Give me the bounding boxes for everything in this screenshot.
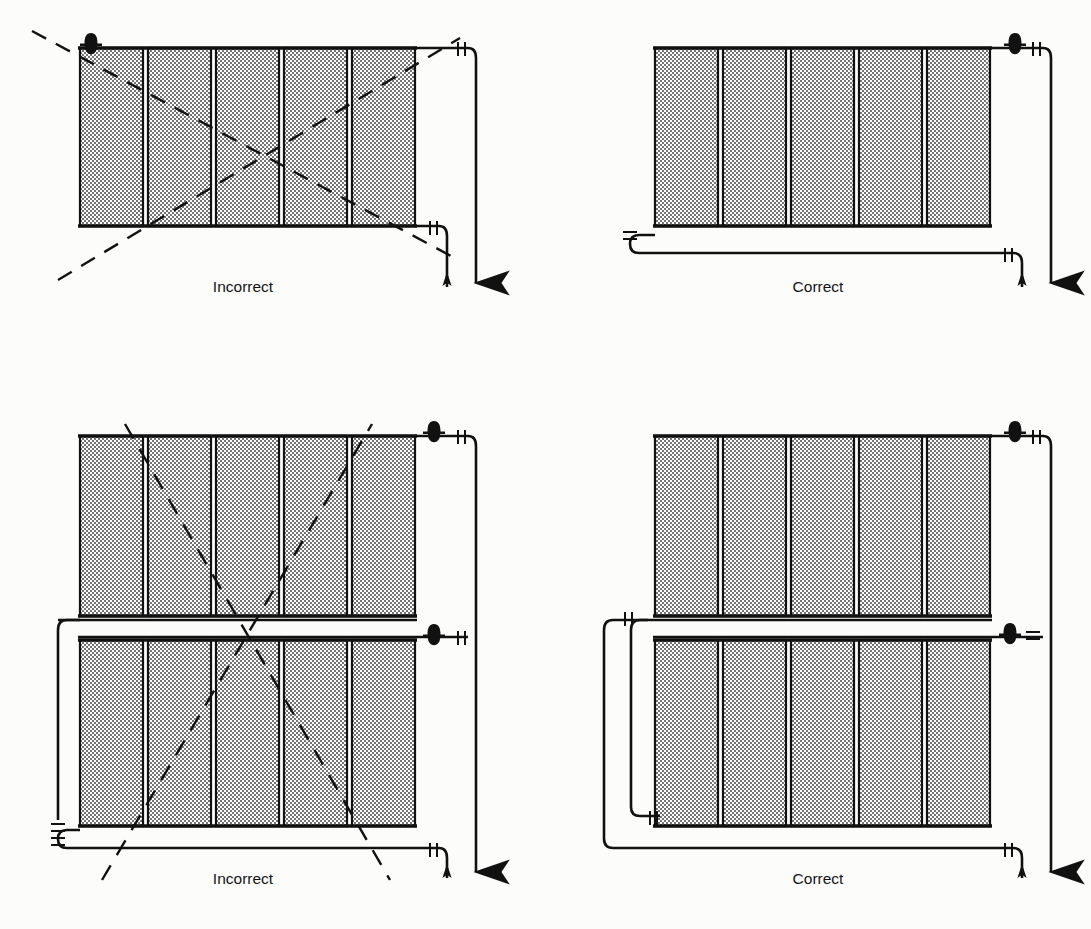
radiator-section — [723, 640, 786, 826]
panel-caption-bottom-right: Correct — [793, 870, 845, 887]
panel-bottom-left — [51, 421, 476, 880]
radiator-section — [148, 48, 211, 226]
radiator-section — [148, 640, 211, 826]
radiator-section — [655, 640, 718, 826]
radiator-bank-lower — [78, 640, 417, 826]
radiator-bank-upper — [78, 436, 417, 616]
radiator-section — [723, 48, 786, 226]
radiator-section — [859, 640, 922, 826]
radiator-section — [80, 640, 143, 826]
radiator-section — [791, 48, 854, 226]
radiator-section — [352, 640, 415, 826]
radiator-sections — [655, 436, 990, 616]
radiator-sections — [80, 640, 415, 826]
radiator-section — [655, 48, 718, 226]
radiator-section — [284, 640, 347, 826]
panel-bottom-right — [604, 421, 1051, 878]
radiator-section — [216, 48, 279, 226]
radiator-section — [927, 436, 990, 616]
panel-caption-bottom-left: Incorrect — [213, 870, 274, 887]
radiator-section — [859, 48, 922, 226]
radiator-bank-single — [653, 48, 992, 226]
radiator-sections — [655, 48, 990, 226]
radiator-section — [655, 436, 718, 616]
radiator-section — [927, 640, 990, 826]
radiator-sections — [655, 640, 990, 826]
radiator-section — [352, 436, 415, 616]
piping-diagram-figure: Incorrect Correct — [0, 0, 1091, 929]
radiator-section — [216, 640, 279, 826]
radiator-section — [284, 436, 347, 616]
radiator-bank-upper — [653, 436, 992, 616]
radiator-section — [927, 48, 990, 226]
panel-caption-top-left: Incorrect — [213, 278, 274, 295]
radiator-section — [352, 48, 415, 226]
radiator-bank-lower — [653, 640, 992, 826]
radiator-section — [148, 436, 211, 616]
radiator-section — [80, 436, 143, 616]
radiator-bank-single — [78, 48, 417, 226]
radiator-section — [859, 436, 922, 616]
radiator-section — [791, 640, 854, 826]
radiator-section — [216, 436, 279, 616]
radiator-section — [791, 436, 854, 616]
radiator-sections — [80, 48, 415, 226]
radiator-section — [723, 436, 786, 616]
panel-caption-top-right: Correct — [793, 278, 845, 295]
radiator-sections — [80, 436, 415, 616]
